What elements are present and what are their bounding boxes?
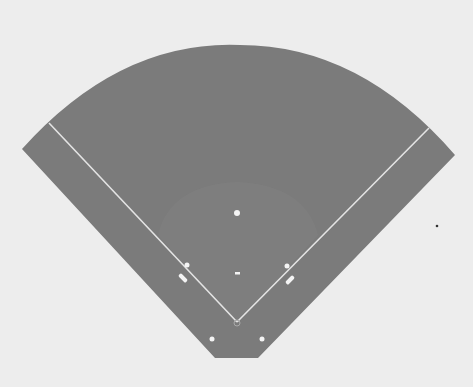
first-base bbox=[285, 264, 290, 269]
third-base bbox=[185, 263, 190, 268]
stray-dot bbox=[436, 225, 439, 228]
baseball-field-diagram bbox=[0, 0, 473, 387]
pitchers-mound bbox=[235, 272, 240, 275]
left-marker bbox=[210, 337, 215, 342]
second-base bbox=[234, 210, 240, 216]
right-marker bbox=[260, 337, 265, 342]
